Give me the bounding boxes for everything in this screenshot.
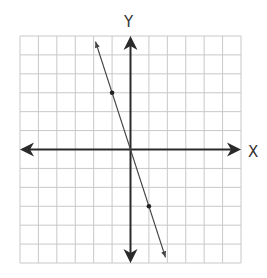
x-axis-label: X (248, 143, 258, 161)
line-arrow-end-icon (161, 251, 166, 257)
line-arrow-start-icon (95, 42, 100, 48)
coordinate-plane (0, 0, 267, 278)
data-point (110, 90, 115, 95)
data-point (147, 204, 152, 209)
y-axis-label: Y (124, 13, 133, 31)
